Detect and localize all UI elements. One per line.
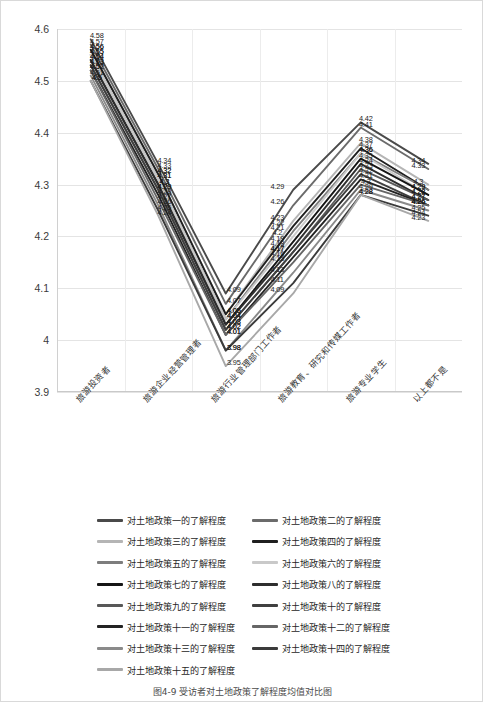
series-line bbox=[91, 55, 429, 319]
legend-item[interactable]: 对土地政策十二的了解程度 bbox=[252, 620, 407, 634]
legend-item[interactable]: 对土地政策三的了解程度 bbox=[97, 534, 252, 548]
gridline-horizontal bbox=[57, 392, 462, 393]
legend-label: 对土地政策十三的了解程度 bbox=[127, 641, 235, 655]
legend-item[interactable]: 对土地政策二的了解程度 bbox=[252, 513, 407, 527]
data-point-label: 4.15 bbox=[270, 254, 284, 263]
legend-item[interactable]: 对土地政策一的了解程度 bbox=[97, 513, 252, 527]
data-point-label: 4.13 bbox=[270, 264, 284, 273]
y-axis-tick-label: 4.1 bbox=[0, 282, 49, 294]
legend-item[interactable]: 对土地政策十三的了解程度 bbox=[97, 641, 252, 655]
series-line bbox=[91, 76, 429, 351]
chart-figure: 4.64.54.44.34.24.143.9 4.584.574.564.564… bbox=[0, 0, 483, 702]
legend-color-swatch bbox=[252, 561, 278, 564]
legend-row: 对土地政策十五的了解程度 bbox=[97, 663, 407, 677]
legend-color-swatch bbox=[97, 540, 123, 543]
data-point-label: 4.09 bbox=[227, 285, 241, 294]
y-axis-tick-label: 4.2 bbox=[0, 230, 49, 242]
legend-color-swatch bbox=[252, 604, 278, 607]
legend-row: 对土地政策七的了解程度对土地政策八的了解程度 bbox=[97, 577, 407, 591]
legend-row: 对土地政策十三的了解程度对土地政策十四的了解程度 bbox=[97, 641, 407, 655]
legend-item[interactable]: 对土地政策四的了解程度 bbox=[252, 534, 407, 548]
y-axis-tick-label: 3.9 bbox=[0, 386, 49, 398]
series-line bbox=[91, 55, 429, 319]
data-point-label: 4.23 bbox=[411, 212, 425, 221]
legend-item[interactable]: 对土地政策十的了解程度 bbox=[252, 599, 407, 613]
legend-label: 对土地政策二的了解程度 bbox=[282, 513, 381, 527]
y-axis-tick-label: 4.4 bbox=[0, 127, 49, 139]
y-axis-labels: 4.64.54.44.34.24.143.9 bbox=[1, 29, 57, 392]
legend-row: 对土地政策五的了解程度对土地政策六的了解程度 bbox=[97, 556, 407, 570]
data-point-label: 4.01 bbox=[227, 326, 241, 335]
data-point-label: 4.33 bbox=[411, 161, 425, 170]
legend-label: 对土地政策九的了解程度 bbox=[127, 599, 226, 613]
legend-item[interactable]: 对土地政策十一的了解程度 bbox=[97, 620, 252, 634]
legend-label: 对土地政策五的了解程度 bbox=[127, 556, 226, 570]
chart-legend: 对土地政策一的了解程度对土地政策二的了解程度对土地政策三的了解程度对土地政策四的… bbox=[97, 513, 407, 684]
data-point-label: 4.09 bbox=[270, 285, 284, 294]
legend-color-swatch bbox=[252, 625, 278, 628]
legend-row: 对土地政策九的了解程度对土地政策十的了解程度 bbox=[97, 599, 407, 613]
series-line bbox=[91, 60, 429, 324]
legend-item[interactable]: 对土地政策七的了解程度 bbox=[97, 577, 252, 591]
legend-color-swatch bbox=[97, 604, 123, 607]
legend-item[interactable]: 对土地政策十四的了解程度 bbox=[252, 641, 407, 655]
data-point-label: 4.11 bbox=[271, 275, 284, 284]
legend-label: 对土地政策三的了解程度 bbox=[127, 534, 226, 548]
figure-caption: 图4-9 受访者对土地政策了解程度均值对比图 bbox=[1, 685, 483, 702]
data-point-label: 4.28 bbox=[359, 186, 373, 195]
legend-item[interactable]: 对土地政策九的了解程度 bbox=[97, 599, 252, 613]
x-axis-category-labels: 旅游投资者旅游企业经营管理者旅游行业管理部门工作者旅游教育、研究和传媒工作者旅游… bbox=[57, 394, 462, 494]
legend-label: 对土地政策八的了解程度 bbox=[282, 577, 381, 591]
legend-label: 对土地政策一的了解程度 bbox=[127, 513, 226, 527]
series-line bbox=[91, 65, 429, 329]
legend-color-swatch bbox=[252, 583, 278, 586]
legend-color-swatch bbox=[97, 668, 123, 671]
legend-label: 对土地政策七的了解程度 bbox=[127, 577, 226, 591]
legend-color-swatch bbox=[252, 540, 278, 543]
legend-label: 对土地政策十四的了解程度 bbox=[282, 641, 390, 655]
y-axis-tick-label: 4.6 bbox=[0, 23, 49, 35]
y-axis-tick-label: 4 bbox=[0, 334, 49, 346]
data-point-label: 4.26 bbox=[270, 197, 284, 206]
y-axis-tick-label: 4.3 bbox=[0, 179, 49, 191]
legend-label: 对土地政策十二的了解程度 bbox=[282, 620, 390, 634]
series-line bbox=[91, 70, 429, 334]
legend-item[interactable]: 对土地政策十五的了解程度 bbox=[97, 663, 252, 677]
data-point-label: 3.98 bbox=[227, 342, 241, 351]
data-point-label: 4.5 bbox=[92, 72, 102, 81]
legend-color-swatch bbox=[97, 561, 123, 564]
series-line bbox=[91, 81, 429, 366]
legend-color-swatch bbox=[97, 519, 123, 522]
legend-label: 对土地政策十一的了解程度 bbox=[127, 620, 235, 634]
legend-color-swatch bbox=[97, 647, 123, 650]
legend-color-swatch bbox=[97, 583, 123, 586]
legend-label: 对土地政策四的了解程度 bbox=[282, 534, 381, 548]
legend-item[interactable]: 对土地政策六的了解程度 bbox=[252, 556, 407, 570]
legend-row: 对土地政策一的了解程度对土地政策二的了解程度 bbox=[97, 513, 407, 527]
legend-row: 对土地政策十一的了解程度对土地政策十二的了解程度 bbox=[97, 620, 407, 634]
legend-label: 对土地政策六的了解程度 bbox=[282, 556, 381, 570]
legend-item[interactable]: 对土地政策五的了解程度 bbox=[97, 556, 252, 570]
legend-item[interactable]: 对土地政策八的了解程度 bbox=[252, 577, 407, 591]
y-axis-tick-label: 4.5 bbox=[0, 75, 49, 87]
legend-label: 对土地政策十五的了解程度 bbox=[127, 663, 235, 677]
data-point-label: 4.41 bbox=[359, 119, 373, 128]
legend-label: 对土地政策十的了解程度 bbox=[282, 599, 381, 613]
series-line bbox=[91, 81, 429, 351]
legend-color-swatch bbox=[97, 625, 123, 628]
data-point-label: 4.24 bbox=[157, 207, 171, 216]
legend-color-swatch bbox=[252, 519, 278, 522]
data-point-label: 4.07 bbox=[227, 295, 241, 304]
legend-row: 对土地政策三的了解程度对土地政策四的了解程度 bbox=[97, 534, 407, 548]
data-point-label: 4.29 bbox=[270, 181, 284, 190]
legend-color-swatch bbox=[252, 647, 278, 650]
